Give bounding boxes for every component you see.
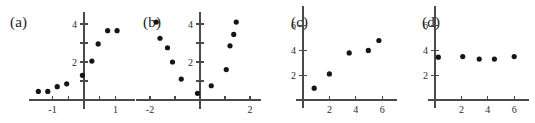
data-point: [170, 59, 175, 64]
data-point: [477, 56, 482, 61]
scatterplot-figure: (a) -1124 (b) -2224 (c) 246246 (d) 24624…: [0, 0, 535, 123]
y-tick-label: 2: [291, 70, 296, 81]
y-tick-label: 4: [72, 19, 77, 30]
data-point: [195, 91, 200, 96]
y-tick-label: 2: [72, 57, 77, 68]
x-tick-label: 2: [248, 104, 253, 115]
data-point: [89, 58, 94, 63]
x-tick-label: 1: [113, 104, 118, 115]
x-tick-label: 6: [380, 104, 385, 115]
data-point: [460, 54, 465, 59]
data-point: [157, 36, 162, 41]
data-point: [114, 28, 119, 33]
x-tick-label: 2: [459, 104, 464, 115]
panel-a: (a) -1124: [0, 0, 140, 123]
y-tick-label: 2: [188, 57, 193, 68]
scatter-plot-b: -2224: [136, 0, 270, 123]
data-point: [224, 67, 229, 72]
data-point: [327, 71, 332, 76]
x-tick-label: -2: [146, 104, 154, 115]
y-tick-label: 4: [188, 19, 193, 30]
data-point: [96, 41, 101, 46]
data-point: [105, 28, 110, 33]
scatter-plot-c: 246246: [272, 0, 402, 123]
y-tick-label: 4: [423, 45, 428, 56]
data-point: [366, 48, 371, 53]
data-point: [154, 20, 159, 25]
x-tick-label: 6: [512, 104, 517, 115]
data-point: [45, 89, 50, 94]
data-point: [347, 50, 352, 55]
data-point: [179, 77, 184, 82]
x-tick-label: 4: [353, 104, 358, 115]
data-point: [492, 56, 497, 61]
data-point: [64, 81, 69, 86]
data-point: [209, 83, 214, 88]
y-tick-label: 2: [423, 70, 428, 81]
y-tick-label: 4: [291, 45, 296, 56]
panel-c: (c) 246246: [272, 0, 402, 123]
data-point: [55, 84, 60, 89]
x-tick-label: -1: [48, 104, 56, 115]
data-point: [165, 45, 170, 50]
data-point: [312, 86, 317, 91]
x-tick-label: 2: [327, 104, 332, 115]
data-point: [80, 73, 85, 78]
data-point: [227, 43, 232, 48]
data-point: [376, 38, 381, 43]
scatter-plot-a: -1124: [0, 0, 140, 123]
panel-d: (d) 246246: [404, 0, 535, 123]
y-tick-label: 6: [423, 20, 428, 31]
x-tick-label: 4: [485, 104, 490, 115]
data-point: [36, 89, 41, 94]
panel-b: (b) -2224: [136, 0, 270, 123]
data-point: [234, 20, 239, 25]
data-point: [231, 32, 236, 37]
scatter-plot-d: 246246: [404, 0, 535, 123]
data-point: [512, 54, 517, 59]
data-point: [436, 55, 441, 60]
y-tick-label: 6: [291, 20, 296, 31]
